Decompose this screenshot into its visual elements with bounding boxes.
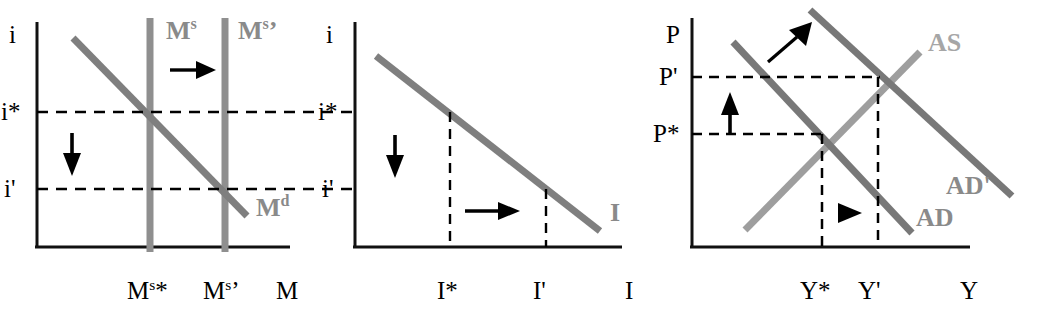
ad-as-y-tick-p-star: P* [653,121,679,146]
ad-shift-arrow [768,22,812,62]
investment-x-tick-i-star: I* [437,278,458,303]
money-supply-curve-label: Ms [166,18,197,44]
output-rise-arrow [838,203,862,223]
investment-y-axis-label: i [326,22,333,47]
ad-as-y-axis-label: P [666,22,680,47]
panel-ad-as [690,10,1012,248]
money-supply-shift-arrow [170,61,216,79]
investment-x-tick-i-prime: I' [533,278,546,303]
ad-as-y-tick-p-prime: P' [659,64,677,89]
money-supply-new-curve-label: Ms’ [238,18,278,44]
interest-rate-fall-arrow [63,133,81,176]
panel-investment [353,22,622,248]
investment-x-axis-label: I [625,278,633,303]
money-market-x-axis-label: M [276,278,298,303]
money-market-x-tick-ms-prime: Ms’ [203,278,240,303]
economics-three-panel-figure: i i* i' Ms Ms’ Md Ms* Ms’ M i i* i' I I*… [0,0,1051,318]
ad-as-x-tick-y-prime: Y' [858,278,881,303]
price-level-rise-arrow [721,92,739,134]
money-market-y-tick-i-star: i* [1,99,20,124]
money-market-y-tick-i-prime: i' [4,176,15,201]
investment-y-tick-i-prime: i' [322,176,333,201]
investment-rise-arrow [465,202,520,220]
money-market-y-axis-label: i [9,22,16,47]
money-demand-curve-label: Md [256,195,290,221]
aggregate-demand-new-curve-label: AD' [946,173,991,199]
investment-demand-curve-label: I [610,200,620,226]
ad-as-x-axis-label: Y [960,278,978,303]
aggregate-demand-new-curve [810,10,1012,196]
ad-as-x-tick-y-star: Y* [800,278,831,303]
aggregate-supply-curve-label: AS [928,30,961,56]
panel-money-market [35,18,360,252]
aggregate-demand-curve-label: AD [916,205,954,231]
money-market-x-tick-ms-star: Ms* [127,278,168,303]
figure-canvas [0,0,1051,318]
investment-y-tick-i-star: i* [318,99,337,124]
investment-demand-curve [376,56,600,231]
investment-interest-fall-arrow [386,135,404,178]
